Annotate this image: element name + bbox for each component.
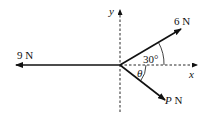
force-pn-label: P N: [165, 95, 182, 106]
force-6n-label: 6 N: [174, 16, 190, 27]
force-p-unit: N: [172, 94, 183, 106]
force-pn-arrow: [120, 65, 165, 100]
force-9n-label: 9 N: [17, 50, 33, 61]
angle-30-arc: [159, 43, 165, 66]
x-axis-label: x: [189, 69, 194, 80]
y-axis-label: y: [109, 6, 114, 17]
angle-theta-label: θ: [137, 68, 142, 79]
force-p-variable: P: [165, 94, 172, 106]
angle-30-label: 30°: [143, 54, 158, 65]
